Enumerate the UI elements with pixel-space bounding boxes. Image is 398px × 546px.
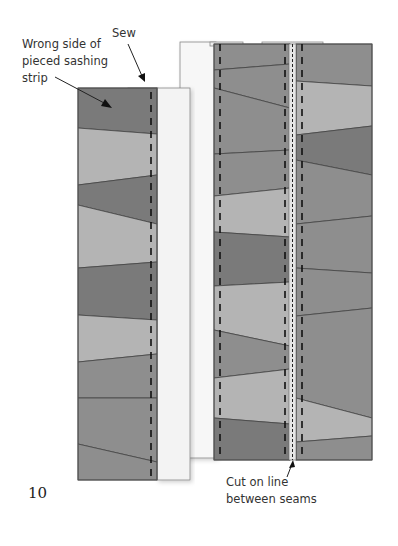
right-pieced-strip (296, 44, 372, 460)
quilt-diagram: Wrong side of pieced sashing strip Sew C… (0, 0, 398, 546)
fabric-piece (78, 262, 157, 320)
fabric-piece (296, 44, 372, 86)
middle-pieced-strip (214, 44, 290, 460)
sew-arrow (128, 44, 142, 76)
fabric-piece (296, 216, 372, 273)
fabric-piece (214, 188, 290, 237)
left-pieced-strip (78, 88, 157, 480)
cut-label: Cut on line between seams (226, 474, 317, 508)
left-light-strip (157, 88, 190, 480)
cut-arrowhead (289, 460, 295, 468)
wrong-side-label: Wrong side of pieced sashing strip (22, 36, 108, 87)
fabric-piece (214, 369, 290, 424)
fabric-piece (296, 81, 372, 135)
fabric-piece (214, 418, 290, 460)
fabric-piece (214, 232, 290, 286)
figure-number: 10 (28, 484, 47, 502)
sew-label: Sew (112, 25, 136, 42)
fabric-piece (78, 354, 157, 398)
